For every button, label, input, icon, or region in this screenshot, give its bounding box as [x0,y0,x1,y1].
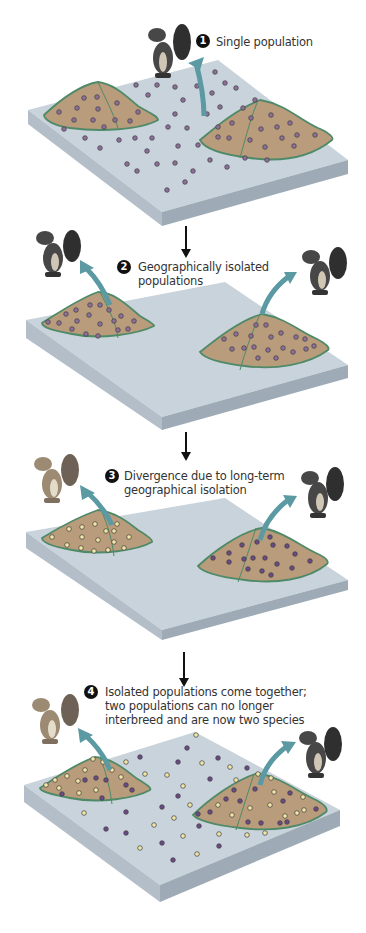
step-4-label-line3: interbreed and are now two species [105,713,304,727]
step-1-label: Single population [216,35,313,49]
step-2-label-line1: Geographically isolated [138,260,269,274]
squirrel-icon-right [301,467,344,518]
step-4-number: 4 [84,685,98,699]
step-4-panel: 4 Isolated populations come together; tw… [0,640,366,933]
step-3-panel: 3 Divergence due to long-term geographic… [0,430,366,640]
step-3-label-line1: Divergence due to long-term [124,469,285,483]
step-2-label-line2: populations [138,274,203,288]
squirrel-icon-left [36,230,81,277]
step-4-label-line2: two populations can no longer [105,699,274,713]
step-1-panel: 1 Single population [0,0,366,230]
step-4-landscape [0,640,366,933]
squirrel-icon-left-tan [32,694,79,744]
step-3-number: 3 [105,469,119,483]
step-1-number: 1 [196,34,210,48]
step-4-label-line1: Isolated populations come together; [105,685,307,699]
step-3-label-line2: geographical isolation [124,483,247,497]
step-2-panel: 2 Geographically isolated populations [0,230,366,430]
squirrel-icon-right [302,247,347,295]
squirrel-icon-right [299,727,342,778]
step-2-number: 2 [117,260,131,274]
squirrel-icon-left-tan [34,454,79,503]
step-3-landscape [0,430,366,640]
